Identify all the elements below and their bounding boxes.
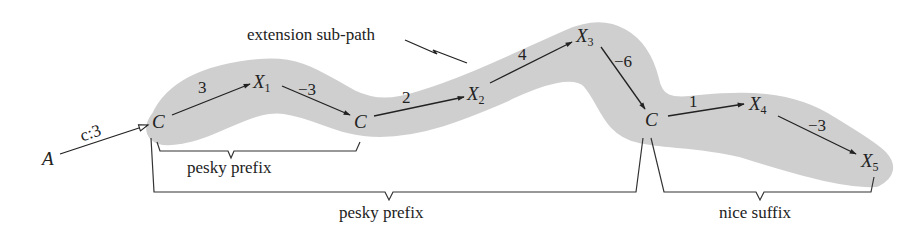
edge-c3-x4-label: 1: [689, 92, 698, 111]
edge-a-c1: [60, 125, 148, 154]
edge-x1-c2-label: −3: [298, 80, 316, 99]
node-a: A: [40, 148, 54, 169]
brace-label-pesky-prefix-short: pesky prefix: [187, 158, 272, 177]
brace-label-pesky-prefix-long: pesky prefix: [339, 203, 424, 222]
brace-pesky-prefix-short: [157, 142, 360, 158]
edge-x2-x3-label: 4: [518, 45, 527, 64]
edge-x4-x5-label: −3: [808, 116, 826, 135]
edge-c2-x2-label: 2: [402, 88, 411, 107]
brace-label-nice-suffix: nice suffix: [719, 203, 791, 222]
node-c1: C: [152, 111, 165, 132]
path-diagram: extension sub-path c:3 3 −3 2 4 −6 1 −3 …: [0, 0, 921, 239]
node-c2: C: [354, 111, 367, 132]
extension-subpath-label: extension sub-path: [247, 25, 375, 44]
edge-c1-x1-label: 3: [198, 78, 207, 97]
edge-x3-c3-label: −6: [614, 52, 632, 71]
node-c3: C: [645, 109, 658, 130]
callout-zigzag-line: [405, 40, 467, 63]
